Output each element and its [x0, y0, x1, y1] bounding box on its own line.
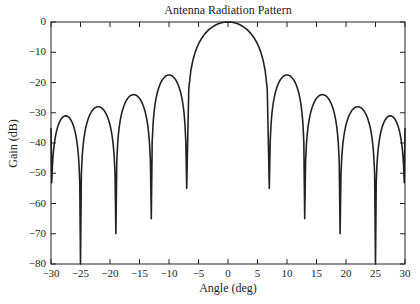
x-tick-label: −15 [125, 267, 155, 279]
chart-title: Antenna Radiation Pattern [51, 3, 405, 18]
plot-frame [51, 22, 405, 264]
axis-ticks [51, 22, 405, 264]
y-tick-label: −20 [20, 76, 46, 88]
x-tick-label: 5 [243, 267, 273, 279]
x-tick-label: −10 [154, 267, 184, 279]
x-tick-label: −30 [36, 267, 66, 279]
x-tick-label: 20 [331, 267, 361, 279]
y-tick-label: −30 [20, 106, 46, 118]
y-tick-label: −10 [20, 45, 46, 57]
x-tick-label: −25 [66, 267, 96, 279]
y-tick-label: −40 [20, 136, 46, 148]
x-tick-label: 15 [302, 267, 332, 279]
x-axis-label: Angle (deg) [51, 281, 405, 296]
x-tick-label: 0 [213, 267, 243, 279]
x-tick-label: −20 [95, 267, 125, 279]
y-tick-label: −60 [20, 197, 46, 209]
x-tick-label: 30 [390, 267, 420, 279]
y-tick-label: 0 [20, 15, 46, 27]
y-axis-label: Gain (dB) [6, 99, 21, 189]
x-tick-label: 10 [272, 267, 302, 279]
y-tick-label: −50 [20, 166, 46, 178]
y-tick-label: −70 [20, 227, 46, 239]
x-tick-label: 25 [361, 267, 391, 279]
x-tick-label: −5 [184, 267, 214, 279]
gain-curve [51, 22, 405, 264]
radiation-pattern-chart [0, 0, 420, 304]
